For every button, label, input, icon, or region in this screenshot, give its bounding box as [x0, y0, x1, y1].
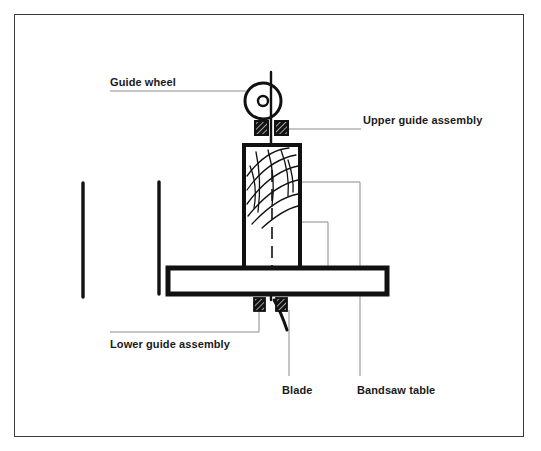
label-upper-guide-assembly: Upper guide assembly — [363, 114, 482, 126]
label-blade: Blade — [282, 384, 312, 396]
bandsaw-diagram — [0, 0, 541, 451]
support-posts — [83, 182, 159, 297]
bandsaw-table-outline — [168, 268, 387, 294]
workpiece — [244, 145, 300, 269]
leader-lines — [110, 91, 361, 376]
lower-guide-block-right — [276, 298, 287, 311]
guide-wheel — [245, 83, 281, 119]
guide-wheel-rim — [245, 83, 281, 119]
guide-wheel-hub — [258, 96, 268, 106]
bandsaw-table — [168, 268, 387, 294]
leader-lower-guide — [110, 312, 259, 332]
lower-guide-block-left — [254, 298, 265, 311]
upper-guide-block-left — [255, 121, 268, 135]
leader-workpiece-upper — [300, 182, 360, 268]
diagram-page: Guide wheel Upper guide assembly Lower g… — [0, 0, 541, 451]
upper-guide-block-right — [275, 121, 288, 135]
label-bandsaw-table: Bandsaw table — [357, 384, 435, 396]
label-guide-wheel: Guide wheel — [110, 76, 176, 88]
label-lower-guide-assembly: Lower guide assembly — [110, 338, 230, 350]
